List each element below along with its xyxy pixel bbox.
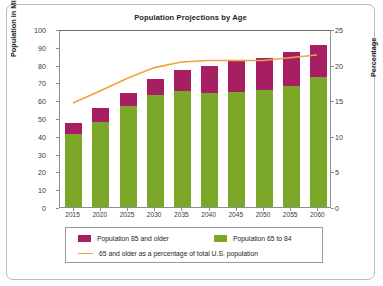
y-left-tick-60: 60 bbox=[22, 97, 46, 106]
legend-row-top: Population 85 and older Population 65 to… bbox=[66, 231, 322, 245]
percentage-line-series bbox=[60, 31, 330, 207]
legend-swatch-magenta-icon bbox=[78, 235, 91, 242]
y-left-tick-50: 50 bbox=[22, 115, 46, 124]
chart-legend: Population 85 and older Population 65 to… bbox=[65, 227, 323, 263]
y-right-tickmark-5 bbox=[331, 172, 334, 173]
y-left-tickmark-60 bbox=[56, 101, 59, 102]
chart-figure: Population Projections by Age Population… bbox=[6, 4, 375, 280]
chart-title: Population Projections by Age bbox=[7, 13, 374, 22]
y-right-tick-5: 5 bbox=[335, 168, 359, 177]
y-left-tick-20: 20 bbox=[22, 168, 46, 177]
y-left-tickmark-10 bbox=[56, 190, 59, 191]
y-left-tickmark-100 bbox=[56, 30, 59, 31]
legend-item-65-to-84: Population 65 to 84 bbox=[214, 231, 292, 245]
y-axis-label-left: Population in Millions bbox=[9, 0, 18, 57]
y-left-tickmark-20 bbox=[56, 172, 59, 173]
y-right-tickmark-25 bbox=[331, 30, 334, 31]
y-axis-label-right: Percentage bbox=[369, 38, 378, 77]
y-right-tickmark-0 bbox=[331, 208, 334, 209]
x-tickmark-2040 bbox=[209, 208, 210, 211]
legend-label-85-and-older: Population 85 and older bbox=[97, 235, 169, 242]
y-left-tickmark-0 bbox=[56, 208, 59, 209]
x-tickmark-2015 bbox=[73, 208, 74, 211]
y-right-tickmark-15 bbox=[331, 101, 334, 102]
y-left-tickmark-90 bbox=[56, 48, 59, 49]
y-left-tickmark-70 bbox=[56, 83, 59, 84]
x-tick-2060: 2060 bbox=[301, 211, 333, 218]
y-right-tickmark-10 bbox=[331, 137, 334, 138]
x-tickmark-2060 bbox=[317, 208, 318, 211]
y-left-tick-0: 0 bbox=[22, 204, 46, 213]
y-left-tickmark-50 bbox=[56, 119, 59, 120]
y-right-tick-0: 0 bbox=[335, 204, 359, 213]
y-left-tick-10: 10 bbox=[22, 186, 46, 195]
legend-label-percentage: 65 and older as a percentage of total U.… bbox=[99, 250, 258, 257]
x-tickmark-2045 bbox=[236, 208, 237, 211]
legend-item-percentage: 65 and older as a percentage of total U.… bbox=[78, 246, 258, 260]
y-left-tickmark-40 bbox=[56, 137, 59, 138]
x-tickmark-2055 bbox=[290, 208, 291, 211]
x-tickmark-2030 bbox=[154, 208, 155, 211]
x-tickmark-2050 bbox=[263, 208, 264, 211]
x-tickmark-2020 bbox=[100, 208, 101, 211]
y-left-tickmark-30 bbox=[56, 155, 59, 156]
legend-item-85-and-older: Population 85 and older bbox=[78, 231, 169, 245]
y-left-tick-70: 70 bbox=[22, 79, 46, 88]
y-right-tick-15: 15 bbox=[335, 97, 359, 106]
y-left-tick-100: 100 bbox=[22, 26, 46, 35]
y-right-tick-10: 10 bbox=[335, 133, 359, 142]
y-right-tickmark-20 bbox=[331, 66, 334, 67]
y-left-tickmark-80 bbox=[56, 66, 59, 67]
y-left-tick-90: 90 bbox=[22, 44, 46, 53]
x-tickmark-2035 bbox=[181, 208, 182, 211]
legend-label-65-to-84: Population 65 to 84 bbox=[233, 235, 292, 242]
plot-area bbox=[59, 30, 331, 208]
y-left-tick-40: 40 bbox=[22, 133, 46, 142]
y-left-tick-30: 30 bbox=[22, 151, 46, 160]
legend-line-orange-icon bbox=[78, 253, 93, 254]
y-right-tick-25: 25 bbox=[335, 26, 359, 35]
x-tickmark-2025 bbox=[127, 208, 128, 211]
y-right-tick-20: 20 bbox=[335, 62, 359, 71]
legend-row-bottom: 65 and older as a percentage of total U.… bbox=[66, 246, 322, 260]
y-left-tick-80: 80 bbox=[22, 62, 46, 71]
legend-swatch-green-icon bbox=[214, 235, 227, 242]
